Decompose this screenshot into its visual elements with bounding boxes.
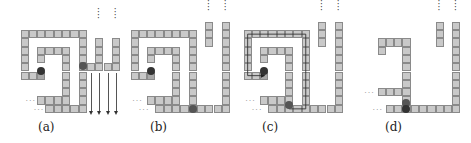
down-arrow-icon <box>108 73 109 112</box>
grid-cell <box>131 30 139 38</box>
robot-marker <box>147 67 155 75</box>
grid-cell <box>79 47 87 55</box>
grid-cell <box>244 72 252 80</box>
grid-cell <box>172 96 180 104</box>
grid-cell <box>452 88 460 96</box>
grid-cell <box>189 55 197 63</box>
grid-cell <box>285 55 293 63</box>
grid-cell <box>79 96 87 104</box>
grid-cell <box>155 30 163 38</box>
grid-cell <box>293 30 301 38</box>
grid-cell <box>244 47 252 55</box>
grid-cell <box>302 38 310 46</box>
grid-cell <box>95 55 103 63</box>
grid-cell <box>436 30 444 38</box>
grid-cell <box>222 88 230 96</box>
grid-cell <box>244 63 252 71</box>
grid-cell <box>37 96 45 104</box>
grid-cell <box>285 47 293 55</box>
grid-cell <box>452 63 460 71</box>
grid-cell <box>268 30 276 38</box>
grid-cell <box>335 30 343 38</box>
panel-label-a: (a) <box>38 120 55 134</box>
grid-cell <box>411 105 419 113</box>
grid-cell <box>277 105 285 113</box>
grid-cell <box>29 30 37 38</box>
horizontal-ellipsis-icon: ··· <box>373 105 384 114</box>
grid-cell <box>302 80 310 88</box>
grid-cell <box>260 96 268 104</box>
grid-cell <box>189 80 197 88</box>
grid-cell <box>45 96 53 104</box>
grid-cell <box>222 72 230 80</box>
grid-cell <box>277 96 285 104</box>
grid-cell <box>62 55 70 63</box>
grid-cell <box>62 72 70 80</box>
grid-cell <box>222 38 230 46</box>
grid-cell <box>402 63 410 71</box>
horizontal-ellipsis-icon: ··· <box>139 105 150 114</box>
grid-cell <box>222 96 230 104</box>
grid-cell <box>452 47 460 55</box>
grid-cell <box>427 105 435 113</box>
grid-cell <box>147 55 155 63</box>
grid-cell <box>222 80 230 88</box>
grid-cell <box>147 47 155 55</box>
grid-cell <box>79 88 87 96</box>
grid-cell <box>62 63 70 71</box>
grid-cell <box>302 47 310 55</box>
grid-cell <box>62 88 70 96</box>
grid-cell <box>164 30 172 38</box>
grid-cell <box>172 30 180 38</box>
grid-cell <box>302 72 310 80</box>
grid-cell <box>21 72 29 80</box>
grid-cell <box>79 30 87 38</box>
grid-cell <box>205 22 213 30</box>
grid-cell <box>452 30 460 38</box>
grid-cell <box>452 55 460 63</box>
grid-cell <box>180 30 188 38</box>
grid-cell <box>205 105 213 113</box>
grid-cell <box>386 38 394 46</box>
grid-cell <box>378 88 386 96</box>
grid-cell <box>335 88 343 96</box>
robot-marker <box>79 62 87 70</box>
grid-cell <box>131 55 139 63</box>
grid-cell <box>285 30 293 38</box>
grid-cell <box>62 105 70 113</box>
grid-cell <box>302 55 310 63</box>
vertical-ellipsis-icon: ···· <box>437 0 440 12</box>
grid-cell <box>112 63 120 71</box>
grid-cell <box>172 72 180 80</box>
grid-cell <box>155 96 163 104</box>
grid-cell <box>147 30 155 38</box>
grid-cell <box>302 63 310 71</box>
grid-cell <box>147 96 155 104</box>
robot-marker <box>260 67 268 75</box>
grid-cell <box>436 105 444 113</box>
grid-cell <box>318 30 326 38</box>
grid-cell <box>112 55 120 63</box>
grid-cell <box>37 55 45 63</box>
grid-cell <box>37 47 45 55</box>
grid-cell <box>327 105 335 113</box>
grid-cell <box>222 47 230 55</box>
grid-cell <box>21 63 29 71</box>
vertical-ellipsis-icon: ···· <box>224 0 227 12</box>
grid-cell <box>302 105 310 113</box>
grid-cell <box>244 30 252 38</box>
grid-cell <box>222 22 230 30</box>
grid-cell <box>54 105 62 113</box>
grid-cell <box>318 38 326 46</box>
grid-cell <box>335 47 343 55</box>
grid-cell <box>95 63 103 71</box>
grid-cell <box>197 105 205 113</box>
down-arrow-icon <box>116 73 117 112</box>
grid-cell <box>155 47 163 55</box>
grid-cell <box>62 30 70 38</box>
grid-cell <box>402 55 410 63</box>
grid-cell <box>244 55 252 63</box>
grid-cell <box>37 30 45 38</box>
down-arrow-icon <box>91 73 92 112</box>
grid-cell <box>45 30 53 38</box>
